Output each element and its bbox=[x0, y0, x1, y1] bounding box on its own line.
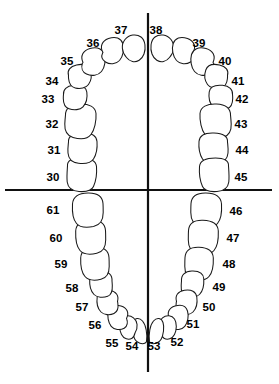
tooth-number-label-56: 56 bbox=[89, 319, 102, 331]
tooth-61[interactable] bbox=[72, 193, 103, 227]
tooth-number-label-42: 42 bbox=[236, 93, 249, 105]
tooth-number-label-59: 59 bbox=[55, 258, 68, 270]
tooth-38[interactable] bbox=[151, 35, 174, 62]
tooth-number-label-45: 45 bbox=[235, 171, 248, 183]
tooth-number-label-47: 47 bbox=[227, 232, 240, 244]
tooth-number-label-40: 40 bbox=[219, 55, 232, 67]
dental-chart-root: 3031323334353637383940414243444546474849… bbox=[0, 0, 279, 384]
tooth-number-label-51: 51 bbox=[187, 318, 200, 330]
tooth-number-label-36: 36 bbox=[87, 37, 100, 49]
tooth-37[interactable] bbox=[122, 35, 145, 62]
tooth-number-label-34: 34 bbox=[46, 75, 59, 87]
tooth-number-label-50: 50 bbox=[203, 301, 216, 313]
tooth-number-label-31: 31 bbox=[48, 144, 61, 156]
tooth-number-label-38: 38 bbox=[150, 24, 163, 36]
tooth-number-label-41: 41 bbox=[232, 75, 245, 87]
tooth-number-label-44: 44 bbox=[236, 144, 249, 156]
tooth-number-label-39: 39 bbox=[193, 37, 206, 49]
tooth-number-label-54: 54 bbox=[126, 340, 139, 352]
tooth-number-label-30: 30 bbox=[47, 171, 60, 183]
tooth-number-label-37: 37 bbox=[115, 24, 128, 36]
tooth-number-label-52: 52 bbox=[171, 336, 184, 348]
tooth-number-label-60: 60 bbox=[50, 232, 63, 244]
tooth-33[interactable] bbox=[63, 85, 87, 110]
tooth-45[interactable] bbox=[199, 158, 229, 192]
tooth-number-label-32: 32 bbox=[46, 118, 59, 130]
tooth-number-label-33: 33 bbox=[42, 93, 55, 105]
tooth-number-label-46: 46 bbox=[230, 205, 243, 217]
tooth-number-label-55: 55 bbox=[106, 337, 119, 349]
tooth-number-label-58: 58 bbox=[66, 282, 79, 294]
tooth-number-label-48: 48 bbox=[223, 258, 236, 270]
tooth-number-label-61: 61 bbox=[47, 204, 60, 216]
tooth-number-label-49: 49 bbox=[213, 281, 226, 293]
tooth-number-label-35: 35 bbox=[61, 55, 74, 67]
tooth-number-label-57: 57 bbox=[76, 301, 89, 313]
tooth-number-label-53: 53 bbox=[148, 340, 161, 352]
tooth-36[interactable] bbox=[101, 38, 123, 64]
tooth-35[interactable] bbox=[82, 48, 105, 76]
tooth-number-label-43: 43 bbox=[235, 118, 248, 130]
dental-arch-diagram: 3031323334353637383940414243444546474849… bbox=[0, 0, 279, 384]
